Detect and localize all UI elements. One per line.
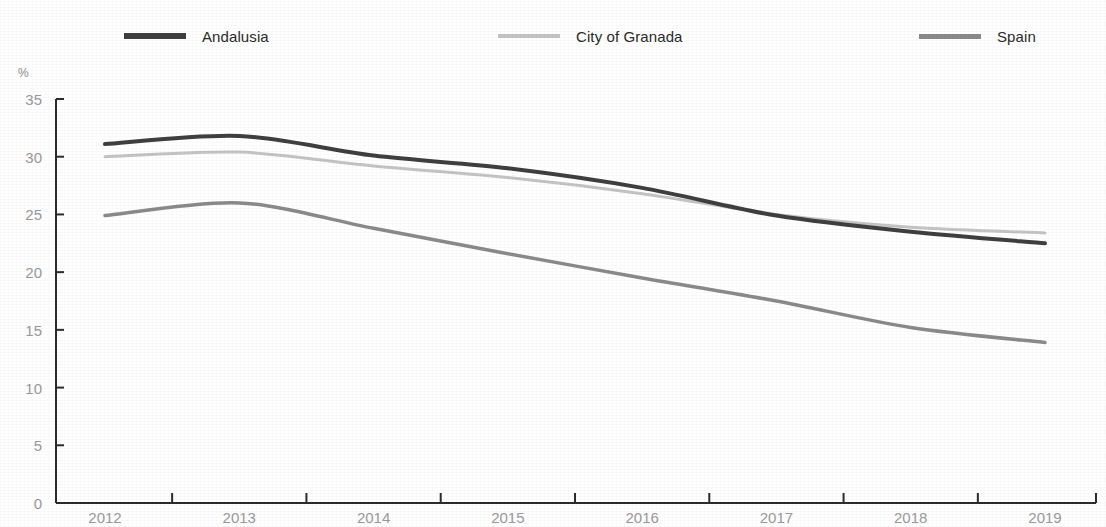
y-axis: 35302520151050 — [25, 91, 64, 512]
y-tick-label: 0 — [34, 495, 42, 512]
x-tick-label: 2017 — [760, 509, 793, 526]
series-line-spain — [105, 203, 1045, 343]
y-tick-label: 25 — [25, 206, 42, 223]
x-tick-label: 2012 — [88, 509, 121, 526]
x-tick-label: 2014 — [357, 509, 390, 526]
y-tick-label: 15 — [25, 322, 42, 339]
series-line-city-of-granada — [105, 152, 1045, 233]
line-chart-svg: 35302520151050 2012201320142015201620172… — [0, 0, 1106, 527]
plot-area: 35302520151050 2012201320142015201620172… — [0, 0, 1106, 527]
x-axis: 20122013201420152016201720182019 — [56, 493, 1096, 526]
y-tick-label: 10 — [25, 380, 42, 397]
x-tick-label: 2016 — [625, 509, 658, 526]
series-lines — [105, 136, 1045, 343]
x-tick-label: 2013 — [223, 509, 256, 526]
x-tick-label: 2018 — [894, 509, 927, 526]
y-tick-label: 30 — [25, 149, 42, 166]
x-tick-label: 2015 — [491, 509, 524, 526]
y-tick-label: 35 — [25, 91, 42, 108]
y-tick-label: 5 — [34, 437, 42, 454]
x-tick-label: 2019 — [1028, 509, 1061, 526]
chart-container: Andalusia City of Granada Spain % 353025… — [0, 0, 1106, 527]
y-tick-label: 20 — [25, 264, 42, 281]
